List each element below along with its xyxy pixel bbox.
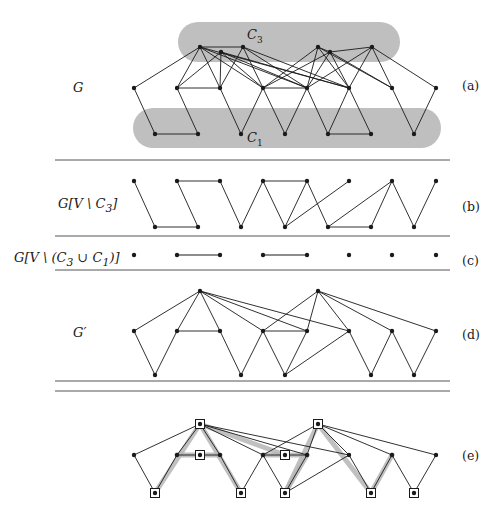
figure-canvas: (a)(b)(c)(d)(e) GG[V \ C3]G[V \ (C3 ∪ C1…	[0, 0, 503, 509]
edge-d-0	[134, 291, 200, 331]
edge-d-5	[200, 291, 349, 331]
node-d-mid-5	[347, 329, 351, 333]
node-a-bot-4	[326, 132, 330, 136]
node-d-mid-6	[390, 329, 394, 333]
node-e-bot-2	[283, 491, 287, 495]
node-b-top-6	[390, 179, 394, 183]
edge-a-42	[349, 88, 371, 134]
node-a-bot-3	[283, 132, 287, 136]
edge-a-7	[220, 52, 221, 88]
graph-a	[132, 45, 438, 136]
edge-e-14	[155, 455, 177, 493]
edge-a-38	[285, 88, 307, 134]
edge-d-9	[318, 291, 392, 331]
edge-e-15	[220, 455, 241, 493]
panel-label-a: G	[73, 80, 83, 95]
edge-a-19	[263, 52, 330, 88]
node-e-mid-4	[261, 453, 265, 457]
node-a-mid-1	[175, 86, 179, 90]
node-b-bot-5	[369, 225, 373, 229]
panel-tag-c: (c)	[462, 253, 479, 268]
edge-b-7	[263, 181, 285, 227]
edge-d-7	[307, 291, 318, 331]
edge-b-5	[241, 181, 263, 227]
edge-a-44	[414, 88, 436, 134]
edge-d-18	[285, 331, 307, 375]
node-d-bot-4	[412, 373, 416, 377]
node-a-top-3	[316, 45, 320, 49]
set-label-C1: C1	[247, 130, 263, 148]
node-b-bot-6	[412, 225, 416, 229]
node-a-bot-2	[239, 132, 243, 136]
node-e-mid-6	[305, 453, 309, 457]
node-c-7	[434, 253, 438, 257]
edge-a-8	[221, 52, 263, 88]
node-e-mid-5	[283, 453, 287, 457]
panel-label-d: G′	[73, 325, 86, 340]
edge-d-1	[177, 291, 200, 331]
node-e-mid-3	[218, 453, 222, 457]
node-e-bot-3	[369, 491, 373, 495]
node-b-bot-3	[283, 225, 287, 229]
node-a-top-1	[219, 50, 223, 54]
node-a-mid-0	[132, 86, 136, 90]
edge-a-0	[134, 47, 200, 88]
edge-b-0	[134, 181, 155, 227]
node-d-top-1	[316, 289, 320, 293]
edge-d-10	[318, 291, 436, 331]
edge-a-36	[241, 88, 263, 134]
node-d-mid-4	[305, 329, 309, 333]
edge-a-40	[328, 88, 349, 134]
panel-tag-a: (a)	[462, 78, 479, 93]
edge-e-23	[414, 455, 436, 493]
edge-b-15	[414, 181, 436, 227]
node-a-top-0	[198, 45, 202, 49]
edge-d-13	[134, 331, 155, 375]
node-d-bot-1	[239, 373, 243, 377]
edge-d-22	[392, 331, 414, 375]
edge-a-32	[134, 88, 155, 134]
node-a-top-2	[241, 45, 245, 49]
node-e-mid-0	[132, 453, 136, 457]
node-e-mid-9	[434, 453, 438, 457]
edge-d-15	[220, 331, 241, 375]
node-b-bot-0	[153, 225, 157, 229]
edge-d-14	[155, 331, 177, 375]
node-d-mid-0	[132, 329, 136, 333]
edge-d-21	[371, 331, 392, 375]
node-e-mid-1	[175, 453, 179, 457]
node-a-mid-4	[305, 86, 309, 90]
node-a-mid-5	[347, 86, 351, 90]
node-b-bot-1	[196, 225, 200, 229]
edge-b-13	[371, 181, 392, 227]
node-b-top-4	[305, 179, 309, 183]
node-e-bot-4	[412, 491, 416, 495]
graph-d	[132, 289, 438, 377]
edge-d-8	[318, 291, 349, 331]
node-d-top-0	[198, 289, 202, 293]
panel-tag-b: (b)	[462, 199, 480, 214]
node-b-top-1	[175, 179, 179, 183]
node-a-bot-6	[412, 132, 416, 136]
edge-a-34	[177, 88, 198, 134]
node-b-top-2	[218, 179, 222, 183]
node-b-bot-2	[239, 225, 243, 229]
edge-e-18	[285, 455, 307, 493]
node-e-top-0	[198, 422, 202, 426]
node-d-bot-3	[369, 373, 373, 377]
node-a-bot-1	[196, 132, 200, 136]
edge-d-17	[263, 331, 285, 375]
hl-edge-e-8	[318, 424, 371, 493]
node-b-top-7	[434, 179, 438, 183]
edge-a-24	[349, 47, 372, 88]
node-e-top-1	[316, 422, 320, 426]
node-b-top-3	[261, 179, 265, 183]
node-e-bot-1	[239, 491, 243, 495]
node-c-4	[305, 253, 309, 257]
panel-tag-e: (e)	[462, 448, 479, 463]
edge-a-20	[307, 52, 330, 88]
edge-b-4	[220, 181, 241, 227]
node-a-bot-0	[153, 132, 157, 136]
node-c-3	[261, 253, 265, 257]
edge-b-14	[392, 181, 414, 227]
